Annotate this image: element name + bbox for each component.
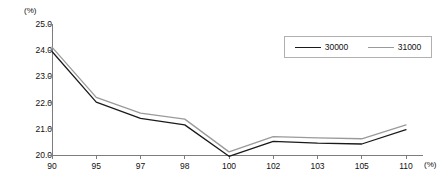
line-chart: (%) (%) 25.024.023.022.021.020.0 9095979… (0, 0, 447, 187)
legend-entry-30000[interactable]: 30000 (295, 42, 349, 52)
data-series-group (52, 47, 406, 156)
legend-swatch-icon (295, 47, 321, 48)
legend-entry-31000[interactable]: 31000 (368, 42, 422, 52)
y-axis-ticks (48, 24, 52, 155)
legend-label: 30000 (325, 42, 349, 52)
series-line-30000 (52, 52, 406, 157)
chart-legend: 3000031000 (284, 36, 432, 58)
legend-label: 31000 (398, 42, 422, 52)
series-line-31000 (52, 47, 406, 152)
legend-swatch-icon (368, 47, 394, 48)
plot-area (0, 0, 447, 187)
